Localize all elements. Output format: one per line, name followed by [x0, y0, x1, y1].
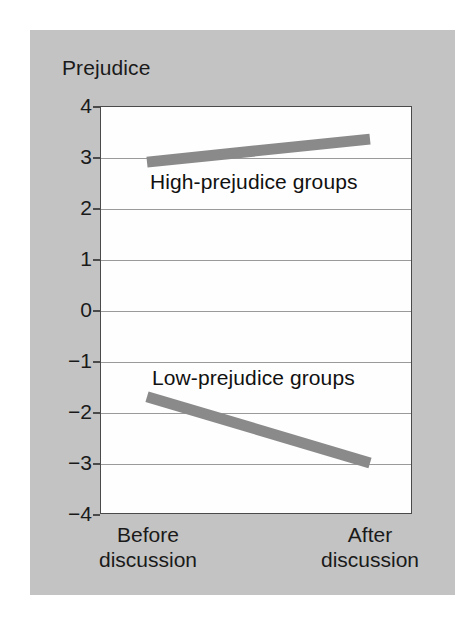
gridline--1: [101, 362, 411, 363]
series-label-high-prejudice: High-prejudice groups: [150, 170, 358, 194]
y-tick-mark-1: [93, 259, 100, 261]
y-axis-tick-labels: 43210−1−2−3−4: [40, 106, 92, 514]
gridline--2: [101, 413, 411, 414]
gridline-3: [101, 158, 411, 159]
y-axis-title: Prejudice: [62, 56, 150, 80]
y-tick-label-1: 1: [46, 247, 92, 271]
y-tick-label-4: 4: [46, 94, 92, 118]
y-tick-mark--1: [93, 361, 100, 363]
gridline-1: [101, 260, 411, 261]
plot-area: [100, 106, 412, 514]
y-tick-label--2: −2: [46, 400, 92, 424]
x-axis-tick-before-line2: discussion: [88, 547, 208, 572]
y-tick-mark--4: [93, 514, 100, 516]
y-tick-label-3: 3: [46, 145, 92, 169]
y-tick-label--1: −1: [46, 349, 92, 373]
y-tick-mark-0: [93, 310, 100, 312]
y-tick-label--3: −3: [46, 451, 92, 475]
gridline-2: [101, 209, 411, 210]
gridline--3: [101, 464, 411, 465]
series-label-low-prejudice: Low-prejudice groups: [152, 366, 355, 390]
y-tick-mark-3: [93, 157, 100, 159]
x-axis-tick-label-after: After discussion: [310, 522, 430, 572]
y-tick-mark-4: [93, 106, 100, 108]
y-tick-label-0: 0: [46, 298, 92, 322]
x-axis-tick-before-line1: Before: [117, 523, 179, 546]
gridline-0: [101, 311, 411, 312]
y-tick-label--4: −4: [46, 502, 92, 526]
x-axis-tick-after-line2: discussion: [310, 547, 430, 572]
y-tick-mark--2: [93, 412, 100, 414]
y-tick-label-2: 2: [46, 196, 92, 220]
x-axis-tick-after-line1: After: [348, 523, 392, 546]
y-tick-mark-2: [93, 208, 100, 210]
y-tick-mark--3: [93, 463, 100, 465]
chart-figure: Prejudice 43210−1−2−3−4 High-prejudice g…: [0, 0, 476, 625]
x-axis-tick-label-before: Before discussion: [88, 522, 208, 572]
